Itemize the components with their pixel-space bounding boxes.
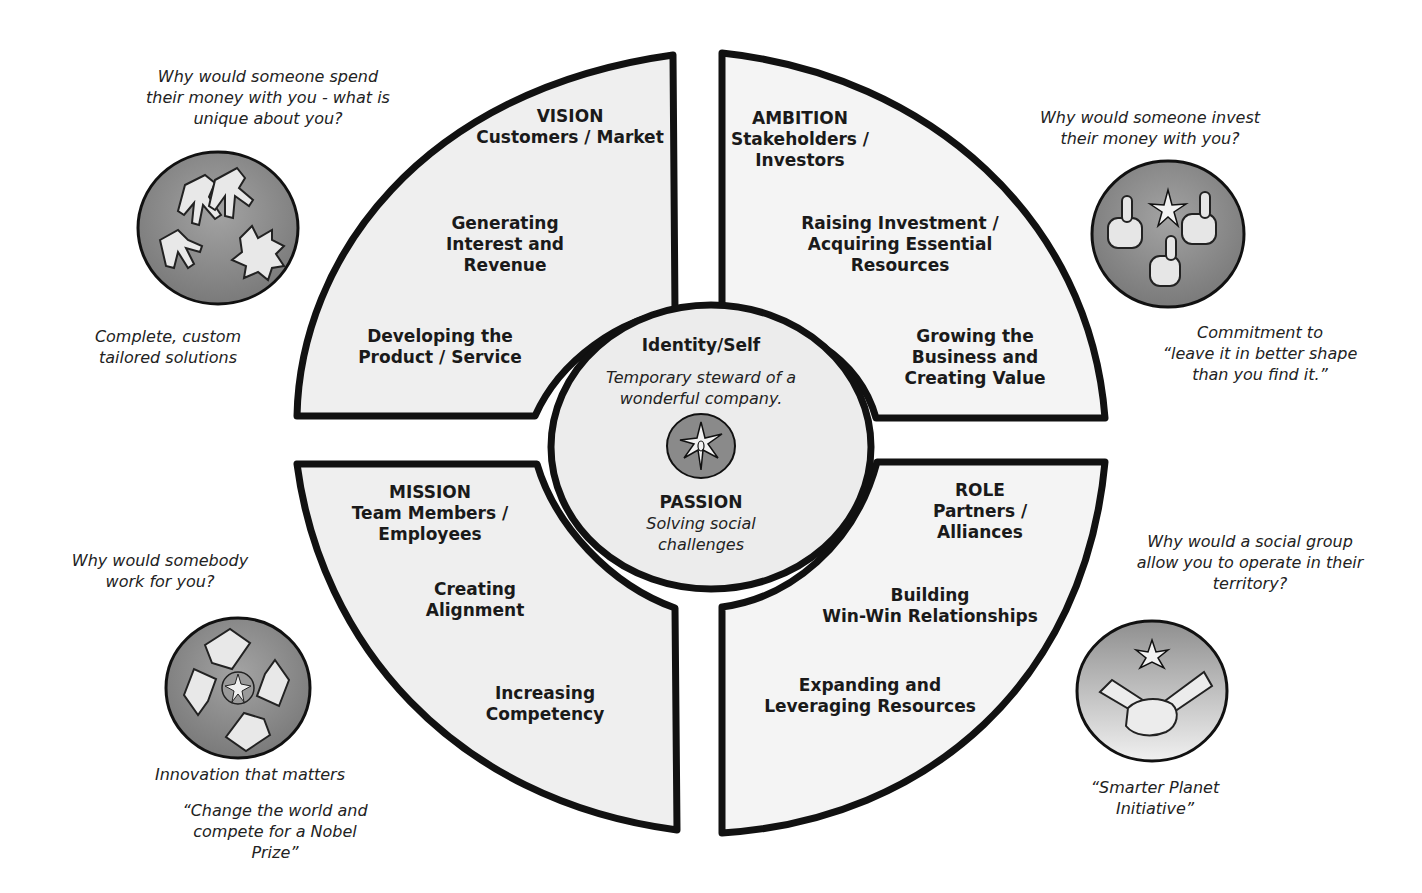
text-line: allow you to operate in their (1115, 552, 1385, 573)
top-left-answer: Complete, custom tailored solutions (58, 326, 278, 368)
thumbs-up-icon (1092, 161, 1244, 307)
text-line: Increasing (470, 683, 620, 704)
bottom-left-quote: “Change the world and compete for a Nobe… (150, 800, 400, 863)
mission-subtitle: Team Members / (340, 503, 520, 524)
text-line: work for you? (40, 571, 280, 592)
text-line: Generating (430, 213, 580, 234)
text-line: Why would someone invest (1020, 107, 1280, 128)
text-line: Prize” (150, 842, 400, 863)
text-line: Raising Investment / (790, 213, 1010, 234)
text-line: “Smarter Planet (1060, 777, 1250, 798)
top-left-question: Why would someone spend their money with… (118, 66, 418, 129)
star-compass-icon (667, 414, 735, 478)
text-line: Why would someone spend (118, 66, 418, 87)
role-subtitle: Partners / (910, 501, 1050, 522)
linked-hands-icon (166, 618, 310, 758)
reaching-hands-icon (138, 152, 298, 304)
text-line: Alignment (405, 600, 545, 621)
top-right-question: Why would someone invest their money wit… (1020, 107, 1280, 149)
text-line: Acquiring Essential (790, 234, 1010, 255)
ambition-title: AMBITION (730, 108, 870, 129)
text-line: Business and (890, 347, 1060, 368)
role-item-relationships: Building Win-Win Relationships (800, 585, 1060, 627)
ambition-item-investment: Raising Investment / Acquiring Essential… (790, 213, 1010, 276)
text-line: Innovation that matters (120, 764, 380, 785)
text-line: challenges (621, 534, 781, 555)
ambition-header: AMBITION Stakeholders / Investors (730, 108, 870, 171)
text-line: Solving social (621, 513, 781, 534)
diagram-canvas: VISION Customers / Market Generating Int… (0, 0, 1422, 893)
text-line: “Change the world and (150, 800, 400, 821)
top-right-answer: Commitment to “leave it in better shape … (1130, 322, 1390, 385)
text-line: Developing the (340, 326, 540, 347)
text-line: Initiative” (1060, 798, 1250, 819)
text-line: unique about you? (118, 108, 418, 129)
mission-item-competency: Increasing Competency (470, 683, 620, 725)
role-title: ROLE (910, 480, 1050, 501)
text-line: Revenue (430, 255, 580, 276)
text-line: Temporary steward of a (581, 367, 821, 388)
text-line: Product / Service (340, 347, 540, 368)
text-line: their money with you? (1020, 128, 1280, 149)
ambition-subtitle-2: Investors (730, 150, 870, 171)
text-line: Why would somebody (40, 550, 280, 571)
vision-title: VISION (470, 106, 670, 127)
text-line: their money with you - what is (118, 87, 418, 108)
text-line: compete for a Nobel (150, 821, 400, 842)
role-header: ROLE Partners / Alliances (910, 480, 1050, 543)
text-line: than you find it.” (1130, 364, 1390, 385)
text-line: wonderful company. (581, 388, 821, 409)
text-line: Competency (470, 704, 620, 725)
text-line: Interest and (430, 234, 580, 255)
vision-item-revenue: Generating Interest and Revenue (430, 213, 580, 276)
mission-header: MISSION Team Members / Employees (340, 482, 520, 545)
passion-subtitle: Solving social challenges (621, 513, 781, 555)
vision-subtitle: Customers / Market (470, 127, 670, 148)
ambition-subtitle: Stakeholders / (730, 129, 870, 150)
vision-header: VISION Customers / Market (470, 106, 670, 148)
mission-title: MISSION (340, 482, 520, 503)
role-subtitle-2: Alliances (910, 522, 1050, 543)
bottom-left-question: Why would somebody work for you? (40, 550, 280, 592)
text-line: Resources (790, 255, 1010, 276)
bottom-right-answer: “Smarter Planet Initiative” (1060, 777, 1250, 819)
text-line: Creating (405, 579, 545, 600)
text-line: Complete, custom (58, 326, 278, 347)
center-subtitle: Temporary steward of a wonderful company… (581, 367, 821, 409)
role-item-resources: Expanding and Leveraging Resources (760, 675, 980, 717)
handshake-icon (1077, 621, 1227, 761)
bottom-left-answer: Innovation that matters (120, 764, 380, 785)
bottom-right-question: Why would a social group allow you to op… (1115, 531, 1385, 594)
ambition-item-growth: Growing the Business and Creating Value (890, 326, 1060, 389)
vision-item-product: Developing the Product / Service (340, 326, 540, 368)
text-line: Commitment to (1130, 322, 1390, 343)
text-line: Creating Value (890, 368, 1060, 389)
text-line: “leave it in better shape (1130, 343, 1390, 364)
passion-title: PASSION (621, 492, 781, 513)
text-line: Growing the (890, 326, 1060, 347)
text-line: Building (800, 585, 1060, 606)
text-line: tailored solutions (58, 347, 278, 368)
center-title: Identity/Self (611, 335, 791, 356)
text-line: Leveraging Resources (760, 696, 980, 717)
text-line: Why would a social group (1115, 531, 1385, 552)
text-line: Expanding and (760, 675, 980, 696)
text-line: Win-Win Relationships (800, 606, 1060, 627)
mission-item-alignment: Creating Alignment (405, 579, 545, 621)
mission-subtitle-2: Employees (340, 524, 520, 545)
text-line: territory? (1115, 573, 1385, 594)
